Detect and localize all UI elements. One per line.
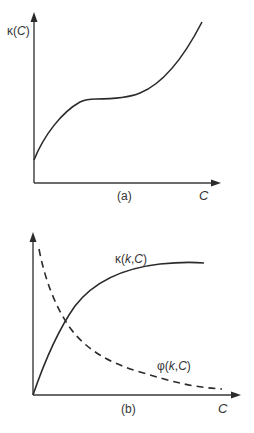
panel-a-y-label: κ(C): [7, 24, 30, 38]
panel-a-x-label: C: [199, 188, 209, 203]
panel-b: κ(k,C) φ(k,C) C (b): [30, 232, 242, 416]
panel-a-y-arrow-icon: [31, 12, 38, 22]
panel-a-caption: (a): [117, 189, 132, 203]
panel-b-caption: (b): [121, 402, 136, 416]
panel-b-x-arrow-icon: [231, 392, 241, 399]
panel-b-kappa-label: κ(k,C): [115, 252, 147, 266]
panel-a: κ(C) C (a): [7, 12, 221, 203]
panel-b-kappa-curve: [33, 262, 204, 395]
panel-b-phi-label: φ(k,C): [157, 359, 191, 373]
panel-a-kappa-curve: [34, 22, 202, 160]
panel-a-x-arrow-icon: [211, 180, 221, 187]
figure: κ(C) C (a) κ(k,C) φ(k,C) C (b): [0, 0, 254, 433]
panel-b-y-arrow-icon: [30, 232, 37, 242]
panel-b-x-label: C: [218, 401, 228, 416]
